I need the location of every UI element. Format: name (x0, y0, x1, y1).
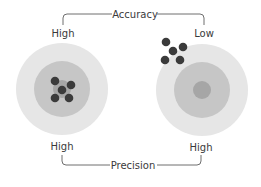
accuracy-bracket: Accuracy High Low (52, 9, 214, 39)
precision-right-high-label: High (190, 142, 213, 153)
precision-bracket: High High Precision (51, 141, 213, 171)
accuracy-low-label: Low (194, 28, 214, 39)
accuracy-title: Accuracy (112, 9, 158, 20)
right-target (156, 38, 248, 136)
accuracy-high-label: High (52, 28, 75, 39)
precision-left-high-label: High (51, 141, 74, 152)
precision-title: Precision (111, 160, 156, 171)
left-target (16, 43, 108, 135)
accuracy-precision-diagram: Accuracy High Low High High (0, 0, 261, 187)
